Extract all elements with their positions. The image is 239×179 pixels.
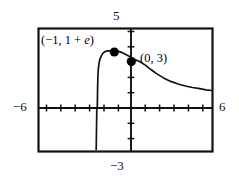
- axis-label-ymax: 5: [113, 9, 120, 22]
- axis-label-xmax: 6: [219, 100, 226, 113]
- point-local-maximum: [110, 47, 119, 56]
- axis-label-xmin: −6: [13, 100, 27, 113]
- vertical-asymptote-artifact: [96, 108, 97, 150]
- plot-canvas: [0, 0, 239, 179]
- annotation-local-maximum: (−1, 1 + e): [41, 34, 94, 47]
- annotation-max-prefix: (−1, 1 +: [41, 33, 84, 47]
- annotation-y-intercept: (0, 3): [140, 52, 167, 65]
- annotation-max-suffix: ): [90, 33, 94, 47]
- point-y-intercept: [127, 57, 136, 66]
- graph-figure: 5 −3 −6 6 (−1, 1 + e) (0, 3): [0, 0, 239, 179]
- axis-label-ymin: −3: [110, 159, 124, 172]
